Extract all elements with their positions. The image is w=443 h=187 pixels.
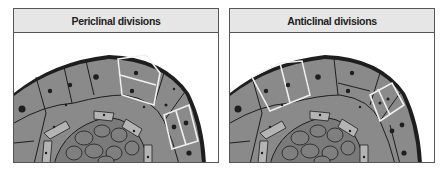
anticlinal-panel: Anticlinal divisions [229,8,435,163]
tissue-section [230,55,422,163]
panel-title: Periclinal divisions [14,9,218,33]
panel-title: Anticlinal divisions [230,9,434,33]
periclinal-tissue-diagram [14,33,218,163]
anticlinal-tissue-diagram [230,33,434,163]
periclinal-panel: Periclinal divisions [13,8,219,163]
tissue-section [14,55,206,163]
